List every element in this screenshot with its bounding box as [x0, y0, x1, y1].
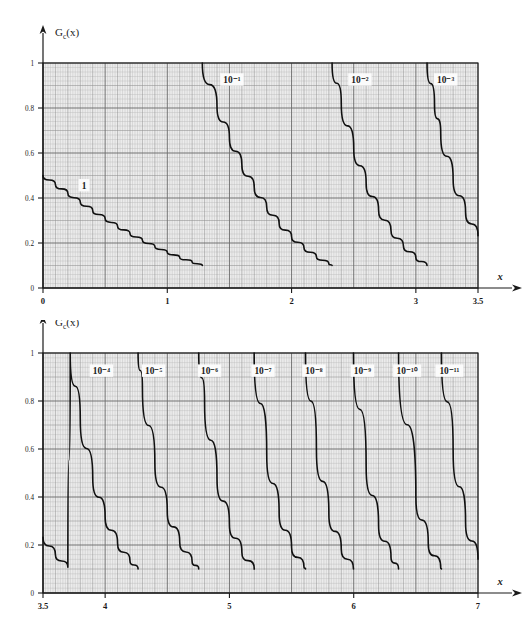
- y-tick-label: 1: [30, 350, 34, 358]
- x-tick-label: 4: [103, 601, 108, 611]
- x-axis-title: x: [496, 576, 502, 587]
- x-tick-label: 7: [476, 601, 481, 611]
- y-tick-label: 0.8: [25, 105, 34, 113]
- y-axis-title: Gc(x): [55, 320, 79, 331]
- x-axis-title: x: [496, 271, 502, 282]
- chart-panel-top: 00.20.40.60.8101233.5Gc(x)x110⁻¹10⁻²10⁻³: [0, 0, 531, 320]
- curve-label: 10⁻⁶: [201, 366, 218, 376]
- chart-panel-bottom: 00.20.40.60.813.54567Gc(x)x10⁻⁴10⁻⁵10⁻⁶1…: [0, 320, 531, 636]
- y-tick-label: 0.8: [25, 398, 34, 406]
- y-tick-label: 0.6: [25, 446, 34, 454]
- curve-label: 10⁻²: [351, 75, 368, 85]
- y-tick-label: 0: [30, 285, 34, 293]
- top-panel-svg: 00.20.40.60.8101233.5Gc(x)x110⁻¹10⁻²10⁻³: [0, 0, 531, 320]
- curve-label: 10⁻⁴: [93, 366, 110, 376]
- curve-label: 10⁻³: [437, 75, 454, 85]
- y-axis-arrow: [40, 25, 47, 34]
- x-tick-label: 0: [41, 296, 45, 306]
- x-tick-label: 1: [165, 296, 169, 306]
- x-tick-label: 5: [227, 601, 231, 611]
- y-tick-label: 0.2: [25, 240, 34, 248]
- bottom-panel-svg: 00.20.40.60.813.54567Gc(x)x10⁻⁴10⁻⁵10⁻⁶1…: [0, 320, 531, 636]
- x-tick-label: 6: [352, 601, 357, 611]
- curve-label: 1: [82, 181, 87, 191]
- curve-label: 10⁻⁷: [254, 366, 271, 376]
- x-tick-label: 2: [289, 296, 293, 306]
- y-tick-label: 0.2: [25, 542, 34, 550]
- y-tick-label: 0: [30, 590, 34, 598]
- x-axis-arrow: [512, 285, 522, 292]
- x-tick-label: 3.5: [38, 601, 49, 611]
- y-axis-title: Gc(x): [55, 26, 79, 41]
- y-tick-label: 1: [30, 60, 34, 68]
- curve-label: 10⁻¹: [223, 75, 240, 85]
- curve-label: 10⁻⁸: [305, 366, 322, 376]
- y-tick-label: 0.6: [25, 150, 34, 158]
- x-tick-label: 3.5: [473, 296, 484, 306]
- y-tick-label: 0.4: [25, 195, 34, 203]
- x-axis-arrow: [512, 590, 522, 597]
- figure-page: 00.20.40.60.8101233.5Gc(x)x110⁻¹10⁻²10⁻³…: [0, 0, 531, 636]
- curve-label: 10⁻⁵: [145, 366, 162, 376]
- curve-label: 10⁻¹⁰: [397, 366, 418, 376]
- x-tick-label: 3: [414, 296, 418, 306]
- curve-label: 10⁻¹¹: [439, 366, 459, 376]
- y-tick-label: 0.4: [25, 494, 34, 502]
- curve-label: 10⁻⁹: [354, 366, 371, 376]
